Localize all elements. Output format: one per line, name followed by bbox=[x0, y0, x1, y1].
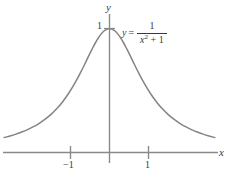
x-axis-label: x bbox=[219, 147, 224, 158]
equation-equals-sign: = bbox=[128, 28, 134, 38]
denominator-exponent: 2 bbox=[145, 32, 149, 40]
function-graph-figure: y x −1 1 1 y = 1 x2 + 1 bbox=[0, 0, 229, 185]
equation-annotation: y = 1 x2 + 1 bbox=[122, 21, 167, 45]
equation-lhs: y bbox=[122, 28, 126, 38]
fraction-denominator: x2 + 1 bbox=[137, 34, 167, 46]
y-axis-label: y bbox=[106, 2, 111, 13]
x-tick-label-1: 1 bbox=[145, 160, 150, 170]
denominator-rest: + 1 bbox=[151, 34, 164, 45]
y-tick-label-1: 1 bbox=[97, 21, 102, 31]
axes-group bbox=[3, 14, 218, 163]
equation-fraction: 1 x2 + 1 bbox=[137, 21, 167, 45]
fraction-numerator: 1 bbox=[145, 21, 158, 33]
plot-canvas bbox=[0, 0, 229, 185]
x-tick-label-neg-1: −1 bbox=[63, 160, 74, 170]
